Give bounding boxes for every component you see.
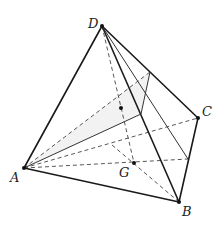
label-G: G [119,165,129,180]
segment-D-H [102,26,188,159]
label-D: D [87,16,99,31]
label-A: A [9,170,19,185]
vertex-D-dot [100,24,104,28]
vertex-B-dot [177,200,181,204]
point-on-DG-dot [119,106,123,110]
label-B: B [181,204,192,219]
tetrahedron-diagram: D C A B G [0,0,221,225]
vertex-A-dot [22,166,26,170]
edge-AB [24,168,179,202]
segment-A-F [24,114,141,168]
point-G-dot [132,161,136,165]
label-C: C [202,104,212,119]
edge-BC [179,118,198,202]
vertex-C-dot [196,116,200,120]
segment-A-E-hidden [24,72,150,168]
